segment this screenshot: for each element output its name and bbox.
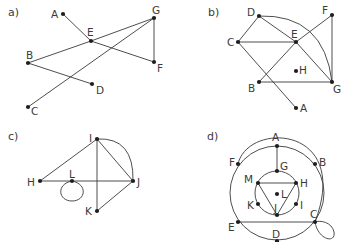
vertex-label: L	[69, 168, 75, 180]
vertex-F	[330, 13, 334, 17]
vertex-label: G	[333, 83, 341, 95]
panel-label: b)	[208, 6, 219, 19]
graph-b: DFCEHBGAb)	[208, 4, 341, 114]
graph-c: IHLJKc)	[8, 130, 140, 217]
vertex-label: D	[272, 228, 280, 240]
vertex-K	[256, 202, 260, 206]
vertex-label: L	[281, 188, 287, 200]
vertex-K	[95, 209, 99, 213]
graph-d: AFBGMHLKIECDd)J	[207, 130, 334, 242]
vertex-label: B	[319, 156, 326, 168]
vertex-D	[90, 82, 94, 86]
edge-B-D	[28, 63, 92, 84]
vertex-label: C	[31, 105, 38, 117]
edge-E-F	[296, 15, 332, 42]
vertex-label: K	[247, 199, 255, 211]
vertex-H	[294, 181, 298, 185]
vertex-label: C	[227, 36, 234, 48]
vertex-label: F	[229, 156, 235, 168]
vertex-I	[95, 137, 99, 141]
edge-I-J	[97, 139, 133, 181]
vertex-label: B	[248, 82, 255, 94]
vertex-A	[294, 106, 298, 110]
vertex-A	[275, 144, 279, 148]
vertex-G	[152, 16, 156, 20]
vertex-E	[89, 39, 93, 43]
vertex-F	[236, 162, 240, 166]
vertex-label: J	[136, 176, 140, 188]
vertex-F	[152, 60, 156, 64]
graph-a: AEGFBDCa)	[8, 4, 163, 117]
vertex-label: I	[300, 199, 303, 211]
vertex-label: D	[96, 84, 104, 96]
panel-label: d)	[207, 130, 218, 143]
vertex-label: F	[322, 4, 328, 16]
edge-E-G	[296, 42, 332, 82]
vertex-label: D	[247, 6, 255, 18]
vertex-C	[236, 40, 240, 44]
graph-figure: AEGFBDCa) DFCEHBGAb) IHLJKc) AFBGMHLKIEC…	[0, 0, 351, 242]
edge-B-E	[259, 42, 296, 82]
edge-E-G	[91, 18, 154, 41]
vertex-J	[131, 179, 135, 183]
vertex-label: E	[228, 221, 235, 233]
edge-C-D	[238, 16, 259, 42]
vertex-label: E	[291, 28, 298, 40]
vertex-C	[26, 105, 30, 109]
vertex-label: A	[51, 8, 59, 20]
vertex-label: G	[280, 160, 288, 172]
vertex-H	[38, 179, 42, 183]
vertex-label: A	[300, 102, 308, 114]
vertex-label: E	[87, 26, 94, 38]
vertex-label: F	[157, 62, 163, 74]
vertex-label: H	[300, 177, 308, 189]
vertex-A	[61, 12, 65, 16]
vertex-D	[257, 14, 261, 18]
vertex-label: M	[244, 173, 253, 185]
vertex-label: H	[299, 64, 307, 76]
panel-label: c)	[8, 130, 18, 143]
vertex-E	[236, 220, 240, 224]
vertex-B	[26, 61, 30, 65]
vertex-G	[275, 169, 279, 173]
vertex-label: H	[27, 176, 35, 188]
vertex-label: G	[152, 4, 160, 16]
edge-B-E	[28, 41, 91, 63]
vertex-label: K	[85, 205, 93, 217]
vertex-I	[294, 202, 298, 206]
vertex-label: J	[273, 202, 277, 214]
vertex-H	[294, 69, 298, 73]
vertex-B	[257, 80, 261, 84]
vertex-label: I	[89, 132, 92, 144]
vertex-label: A	[272, 131, 280, 143]
loop-edge-C	[315, 221, 334, 239]
vertex-L	[275, 192, 279, 196]
vertex-M	[256, 181, 260, 185]
edge-K-J	[97, 181, 133, 211]
vertex-B	[313, 162, 317, 166]
vertex-label: B	[26, 49, 33, 61]
vertex-E	[294, 40, 298, 44]
edge-E-F	[91, 41, 154, 62]
loop-edge-L	[61, 181, 84, 201]
vertex-label: C	[310, 208, 317, 220]
vertex-C	[313, 220, 317, 224]
panel-label: a)	[8, 6, 19, 19]
